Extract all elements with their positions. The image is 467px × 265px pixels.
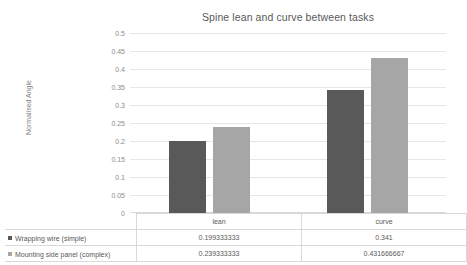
bar-curve-series2 xyxy=(371,58,408,213)
chart-data-table: leancurveWrapping wire (simple)0.1993333… xyxy=(5,213,467,262)
y-axis-tick-label: 0.25 xyxy=(111,120,125,127)
y-axis-tick-label: 0.3 xyxy=(115,102,125,109)
table-category-header: curve xyxy=(302,214,467,230)
y-axis-tick-label: 0.5 xyxy=(115,30,125,37)
table-category-header: lean xyxy=(137,214,302,230)
y-axis-tick-label: 0.2 xyxy=(115,138,125,145)
table-corner-cell xyxy=(5,214,137,230)
table-value-cell: 0.239333333 xyxy=(137,246,302,262)
y-axis-tick-label: 0.1 xyxy=(115,174,125,181)
bar-curve-series1 xyxy=(327,90,364,213)
legend-swatch-icon xyxy=(8,252,12,256)
legend-label: Wrapping wire (simple) xyxy=(15,234,86,241)
legend-item-series2: Mounting side panel (complex) xyxy=(5,246,137,262)
table-row-categories: leancurve xyxy=(5,214,467,230)
y-axis-title: Normalised Angle xyxy=(25,48,32,168)
table-row: Wrapping wire (simple)0.1993333330.341 xyxy=(5,230,467,246)
table-row: Mounting side panel (complex)0.239333333… xyxy=(5,246,467,262)
y-axis-tick-label: 0.35 xyxy=(111,84,125,91)
table-value-cell: 0.199333333 xyxy=(137,230,302,246)
legend-swatch-icon xyxy=(8,236,12,240)
table-value-cell: 0.431666667 xyxy=(302,246,467,262)
y-axis-tick-label: 0.45 xyxy=(111,48,125,55)
y-axis-tick-label: 0.4 xyxy=(115,66,125,73)
bar-lean-series1 xyxy=(169,141,206,213)
plot-area: 00.050.10.150.20.250.30.350.40.450.5 xyxy=(130,33,446,213)
legend-label: Mounting side panel (complex) xyxy=(15,250,110,257)
table-value-cell: 0.341 xyxy=(302,230,467,246)
legend-item-series1: Wrapping wire (simple) xyxy=(5,230,137,246)
y-axis-tick-label: 0.05 xyxy=(111,192,125,199)
y-axis-tick-label: 0.15 xyxy=(111,156,125,163)
gridline xyxy=(130,51,446,52)
gridline xyxy=(130,33,446,34)
chart-title: Spine lean and curve between tasks xyxy=(130,11,446,23)
bar-lean-series2 xyxy=(213,127,250,213)
